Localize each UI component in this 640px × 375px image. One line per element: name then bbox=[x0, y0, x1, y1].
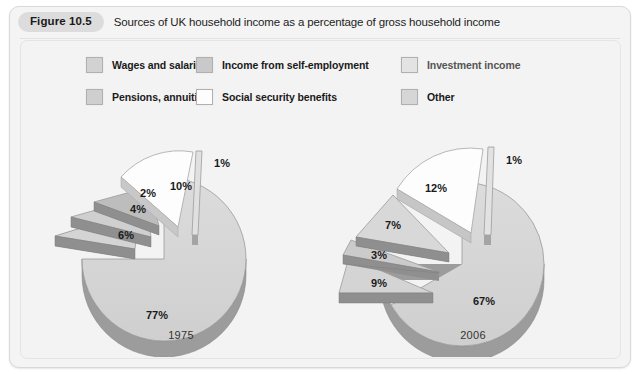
legend-row: Pensions, annuities Social security bene… bbox=[21, 85, 621, 109]
pie-chart-2006: 67% 9% 3% 7% 12% 1% 2006 bbox=[311, 107, 611, 357]
figure-caption-text: Sources of UK household income as a perc… bbox=[114, 16, 500, 28]
slice-value-label-wages: 77% bbox=[146, 309, 168, 321]
slice-value-label-other: 1% bbox=[214, 157, 230, 169]
pie-year-label-2006: 2006 bbox=[323, 329, 621, 341]
pie-1975-svg: 77% 6% 4% 2% 10% 1% bbox=[21, 107, 321, 357]
slice-value-label-socialsecurity: 10% bbox=[170, 180, 192, 192]
legend-item-label: Pensions, annuities bbox=[112, 91, 209, 103]
legend-item-label: Wages and salaries bbox=[112, 59, 207, 71]
figure-container: Figure 10.5 Sources of UK household inco… bbox=[9, 6, 631, 368]
pie-chart-1975: 77% 6% 4% 2% 10% 1% 1975 bbox=[21, 107, 321, 357]
figure-number-badge: Figure 10.5 bbox=[18, 12, 104, 33]
slice-value-label-investment: 2% bbox=[140, 187, 156, 199]
legend-swatch-icon bbox=[196, 57, 213, 73]
pie-2006-svg: 67% 9% 3% 7% 12% 1% bbox=[311, 107, 611, 357]
slice-value-label-pensions: 6% bbox=[118, 229, 134, 241]
pie-year-label-1975: 1975 bbox=[31, 329, 331, 341]
legend-item-other: Other bbox=[401, 85, 581, 109]
caption-divider bbox=[20, 38, 620, 39]
figure-caption-bar: Figure 10.5 Sources of UK household inco… bbox=[10, 7, 630, 37]
legend-item-label: Investment income bbox=[427, 59, 520, 71]
legend-swatch-icon bbox=[86, 89, 103, 105]
legend-swatch-icon bbox=[86, 57, 103, 73]
slice-value-label-selfemployment: 3% bbox=[371, 249, 387, 261]
legend-swatch-icon bbox=[401, 57, 418, 73]
chart-legend: Wages and salaries Income from self-empl… bbox=[21, 49, 621, 111]
legend-item-label: Income from self-employment bbox=[222, 59, 369, 71]
slice-value-label-socialsecurity: 12% bbox=[425, 182, 447, 194]
slice-value-label-pensions: 9% bbox=[371, 277, 387, 289]
slice-value-label-wages: 67% bbox=[473, 295, 495, 307]
legend-item-wages-and-salaries: Wages and salaries bbox=[21, 53, 196, 77]
chart-panel: Wages and salaries Income from self-empl… bbox=[20, 40, 621, 359]
slice-value-label-selfemployment: 4% bbox=[130, 203, 146, 215]
legend-row: Wages and salaries Income from self-empl… bbox=[21, 53, 621, 77]
legend-item-label: Social security benefits bbox=[222, 91, 337, 103]
legend-item-social-security-benefits: Social security benefits bbox=[196, 85, 401, 109]
slice-value-label-investment: 7% bbox=[385, 219, 401, 231]
legend-item-pensions-annuities: Pensions, annuities bbox=[21, 85, 196, 109]
legend-item-label: Other bbox=[427, 91, 455, 103]
slice-value-label-other: 1% bbox=[506, 154, 522, 166]
legend-item-investment-income: Investment income bbox=[401, 53, 581, 77]
legend-item-income-from-self-employment: Income from self-employment bbox=[196, 53, 401, 77]
legend-swatch-icon bbox=[401, 89, 418, 105]
legend-swatch-icon bbox=[196, 89, 213, 105]
